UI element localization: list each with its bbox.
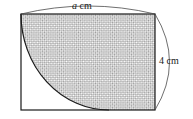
width-unit: cm [80,0,92,11]
height-unit: cm [167,55,179,66]
width-dimension-label: a cm [72,1,92,11]
height-dimension-label: 4 cm [159,56,179,66]
geometry-figure: a cm 4 cm [0,0,193,119]
